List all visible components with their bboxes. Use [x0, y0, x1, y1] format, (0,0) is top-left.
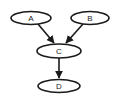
node-b: B: [71, 12, 109, 25]
node-b-label: B: [87, 14, 92, 23]
edge-a-to-c: [38, 24, 54, 43]
node-d: D: [38, 80, 80, 93]
node-a: A: [11, 12, 51, 25]
node-a-label: A: [28, 14, 34, 23]
dag-diagram: A B C D: [0, 0, 118, 102]
edge-b-to-c: [66, 24, 83, 43]
node-c-label: C: [56, 47, 62, 56]
node-c: C: [37, 44, 81, 58]
node-d-label: D: [56, 82, 62, 91]
